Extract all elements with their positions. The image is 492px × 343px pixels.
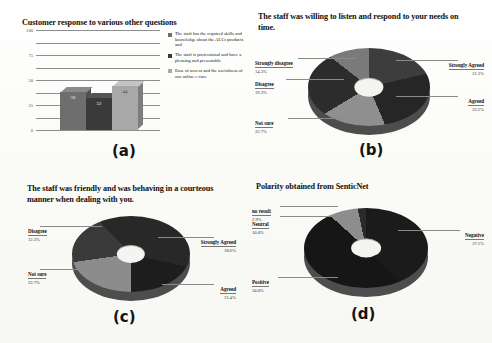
pie-label-agreed-b: Agreed 22.2% [468, 89, 484, 113]
panel-d-pie-chart: Polarity obtained from SenticNet no resu… [246, 172, 492, 343]
y-tick-50: 50 [28, 78, 33, 83]
pie-label-not-sure-c: Not sure 22.7% [28, 262, 46, 286]
legend-swatch-icon-2 [168, 54, 172, 58]
legend-swatch-icon-1 [168, 33, 172, 37]
panel-a-bar-chart: Customer response to various other quest… [0, 0, 246, 172]
y-tick-100: 100 [26, 28, 33, 33]
y-tick-0: 0 [31, 128, 33, 133]
bar-series-2: 32 [86, 98, 112, 130]
legend-item-1: The staff has the required skills and kn… [168, 31, 244, 48]
pie-label-text: Not sure [28, 271, 46, 279]
pie-label-negative-d: Negative 37.1% [465, 223, 484, 247]
panel-a-plot-area: 100 75 50 25 0 38 [36, 30, 160, 130]
panel-d-title: Polarity obtained from SenticNet [256, 182, 476, 193]
legend-item-3: Ease of access and the usefulness of our… [168, 68, 244, 79]
pie-label-pct: 22.7% [28, 280, 46, 286]
pie-label-text: Negative [465, 232, 484, 240]
pie-label-text: Strongly disagree [255, 60, 293, 68]
pie-label-text: Agreed [220, 286, 236, 294]
pie-label-pct: 37.1% [465, 241, 484, 247]
pie-label-text: Agreed [468, 98, 484, 106]
panel-c-pie-chart: The staff was friendly and was behaving … [0, 172, 246, 343]
y-tick-25: 25 [28, 103, 33, 108]
panel-a-legend: The staff has the required skills and kn… [168, 31, 244, 84]
pie-label-disagree-b: Disagree 19.3% [255, 72, 274, 96]
pie-label-pct: 12.3% [28, 237, 47, 243]
panel-a-title: Customer response to various other quest… [22, 18, 232, 29]
pie-label-pct: 21.3% [449, 71, 484, 77]
pie-label-pct: 28.6% [201, 248, 236, 254]
pie-label-pct: 22.2% [468, 107, 484, 113]
panel-c-pie [72, 216, 190, 292]
pie-label-text: Not sure [255, 120, 273, 128]
pie-label-text: Strongly Agreed [201, 239, 236, 247]
legend-item-2: The staff is professional and have a ple… [168, 52, 244, 63]
panel-b-pie-chart: The staff was willing to listen and resp… [246, 0, 492, 172]
pie-label-pct: 10.0% [252, 230, 269, 236]
panel-c-title: The staff was friendly and was behaving … [27, 184, 237, 205]
pie-label-strongly-agreed-c: Strongly Agreed 28.6% [201, 230, 236, 254]
pie-hole-b [354, 78, 383, 97]
panel-d-pie [304, 208, 428, 288]
pie-label-pct: 22.7% [255, 129, 273, 135]
bar-value-3: 44 [112, 89, 138, 94]
panel-a-bars: 38 32 44 [36, 30, 160, 130]
pie-label-pct: 21.4% [220, 295, 236, 301]
pie-label-text: Disagree [255, 81, 274, 89]
pie-label-text: Neutral [252, 221, 269, 229]
y-tick-75: 75 [28, 53, 33, 58]
pie-label-not-sure-b: Not sure 22.7% [255, 111, 273, 135]
panel-b-title: The staff was willing to listen and resp… [258, 12, 476, 33]
legend-label-2: The staff is professional and have a ple… [175, 52, 244, 63]
pie-label-text: Strongly Agreed [449, 62, 484, 70]
pie-label-pct: 50.0% [252, 288, 269, 294]
pie-hole-d [351, 238, 381, 257]
pie-label-positive-d: Positive 50.0% [252, 270, 269, 294]
legend-swatch-icon-3 [168, 69, 172, 73]
legend-label-3: Ease of access and the usefulness of our… [175, 68, 244, 79]
bar-series-3: 44 [112, 86, 138, 130]
pie-label-strongly-agreed-b: Strongly Agreed 21.3% [449, 53, 484, 77]
panel-b-letter: (b) [359, 141, 383, 159]
pie-label-text: Disagree [28, 228, 47, 236]
pie-label-neutral-d: Neutral 10.0% [252, 212, 269, 236]
bar-value-2: 32 [86, 101, 112, 106]
panel-a-letter: (a) [112, 142, 136, 160]
pie-label-text: Positive [252, 279, 269, 287]
bar-value-1: 38 [60, 95, 86, 100]
panel-c-letter: (c) [113, 308, 136, 326]
figure-grid: Customer response to various other quest… [0, 0, 492, 343]
pie-label-agreed-c: Agreed 21.4% [220, 277, 236, 301]
panel-d-letter: (d) [351, 305, 375, 323]
pie-label-pct: 19.3% [255, 90, 274, 96]
pie-label-disagree-c: Disagree 12.3% [28, 219, 47, 243]
bar-series-1: 38 [60, 92, 86, 130]
legend-label-1: The staff has the required skills and kn… [175, 31, 244, 48]
